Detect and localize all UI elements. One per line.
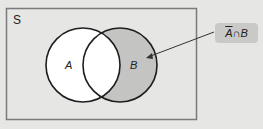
complement-set: A [225, 27, 232, 39]
universe-label: S [13, 13, 21, 27]
region-label-box: A ∩ B [215, 23, 258, 43]
intersection-symbol: ∩ [233, 27, 241, 39]
pointer-arrow [148, 32, 214, 57]
set-a-label: A [65, 59, 72, 71]
second-set: B [240, 27, 247, 39]
set-b-label: B [130, 59, 137, 71]
